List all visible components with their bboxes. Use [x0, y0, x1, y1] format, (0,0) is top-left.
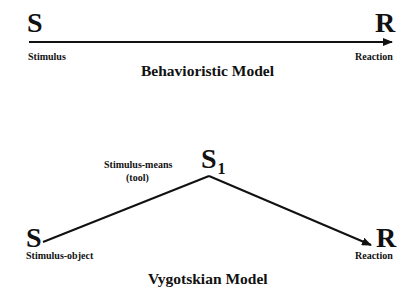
- vygotskian-means-node: S1: [201, 145, 226, 173]
- vygotskian-stimulus-object-label: Stimulus-object: [26, 251, 93, 261]
- vygotskian-line-s-to-s1: [43, 176, 209, 242]
- vygotskian-stimulus-object-symbol: S: [26, 224, 42, 252]
- vygotskian-means-label-line2: (tool): [126, 173, 149, 183]
- vygotskian-reaction-symbol: R: [376, 224, 396, 252]
- behavioristic-stimulus-label: Stimulus: [28, 52, 66, 62]
- vygotskian-means-label-line1: Stimulus-means: [104, 160, 172, 170]
- vygotskian-model-title: Vygotskian Model: [148, 271, 268, 287]
- vygotskian-reaction-label: Reaction: [355, 251, 393, 261]
- vygotskian-means-symbol: S: [201, 143, 217, 174]
- vygotskian-means-subscript: 1: [218, 160, 226, 177]
- diagram-canvas: S Stimulus R Reaction Behavioristic Mode…: [0, 0, 419, 290]
- behavioristic-reaction-label: Reaction: [355, 52, 393, 62]
- vygotskian-arrow-s1-to-r: [209, 176, 371, 245]
- behavioristic-model-title: Behavioristic Model: [141, 63, 274, 79]
- behavioristic-stimulus-symbol: S: [27, 9, 43, 37]
- behavioristic-reaction-symbol: R: [375, 9, 395, 37]
